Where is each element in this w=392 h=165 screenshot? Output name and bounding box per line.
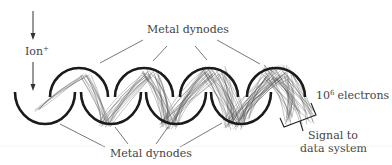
- ion-label: Ion+: [25, 45, 49, 58]
- signal-label-line2: data system: [300, 142, 368, 155]
- bottom-dynode-1: [15, 92, 75, 124]
- bottom-dynodes-label: Metal dynodes: [110, 147, 192, 160]
- top-dynodes-label: Metal dynodes: [147, 23, 229, 36]
- top-leader-lines: [100, 40, 260, 64]
- electron-paths: [35, 65, 315, 130]
- electron-path: [178, 69, 209, 123]
- electron-multiplier-diagram: Ion+ Metal dynodes Metal dynodes 106elec…: [0, 0, 392, 165]
- electron-path: [81, 78, 103, 126]
- electron-count-label: 106electrons: [316, 89, 390, 102]
- signal-label-line1: Signal to: [308, 129, 358, 142]
- electron-path: [35, 76, 87, 112]
- bottom-leader-lines: [60, 123, 222, 147]
